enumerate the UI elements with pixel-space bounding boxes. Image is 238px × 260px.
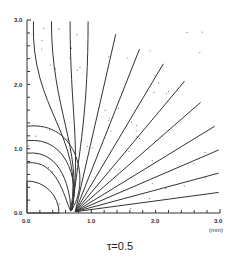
y-tick-3: 3.0 — [14, 17, 22, 23]
y-tick-1: 1.0 — [14, 146, 22, 152]
obstacle-circle — [27, 181, 59, 213]
streamline-plot — [0, 0, 238, 260]
x-tick-0: 0.0 — [22, 218, 30, 224]
x-tick-1: 1.0 — [87, 218, 95, 224]
axes — [27, 20, 220, 213]
plot-lines — [27, 21, 219, 211]
scatter-dots — [28, 28, 206, 210]
x-tick-2: 2.0 — [151, 218, 159, 224]
y-tick-2: 2.0 — [14, 82, 22, 88]
x-tick-3: 3.0 — [214, 218, 222, 224]
x-axis-unit: (mm) — [209, 227, 223, 233]
y-tick-0: 0.0 — [14, 210, 22, 216]
chart-caption: τ=0.5 — [107, 240, 133, 252]
